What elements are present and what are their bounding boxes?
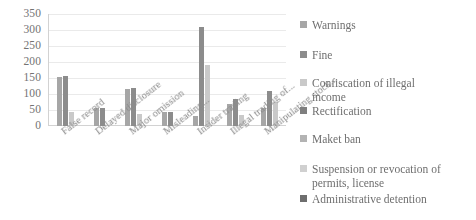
legend-swatch-icon	[300, 195, 307, 202]
legend-label: Maket ban	[312, 132, 361, 146]
legend-item[interactable]: Administrative detention	[300, 192, 472, 206]
legend-swatch-icon	[300, 107, 307, 114]
legend-item[interactable]: Rectification	[300, 104, 472, 118]
y-axis-tick-labels: 350300250200150100500	[0, 14, 44, 126]
plot-area: 350300250200150100500 False recordDelaye…	[0, 0, 290, 220]
legend-label: Administrative detention	[312, 192, 427, 206]
y-axis-tick-label: 150	[23, 72, 41, 84]
legend-label: Fine	[312, 48, 332, 62]
legend-item[interactable]: Maket ban	[300, 132, 472, 146]
legend-swatch-icon	[300, 21, 307, 28]
legend-swatch-icon	[300, 165, 307, 172]
y-axis-tick-label: 250	[23, 40, 41, 52]
legend-label: Rectification	[312, 104, 371, 118]
legend-swatch-icon	[300, 51, 307, 58]
legend-item[interactable]: Suspension or revocation of permits, lic…	[300, 162, 472, 190]
legend-label: Confiscation of illegal income	[312, 76, 415, 104]
y-axis-tick-label: 350	[23, 8, 41, 20]
x-axis-category-labels: False recordDelayed disclosureMajor omis…	[49, 128, 286, 218]
bar-chart: 350300250200150100500 False recordDelaye…	[0, 0, 476, 220]
legend-label: Suspension or revocation of permits, lic…	[312, 162, 441, 190]
y-axis-tick-label: 100	[23, 88, 41, 100]
y-axis-tick-label: 300	[23, 24, 41, 36]
legend-item[interactable]: Warnings	[300, 18, 472, 32]
bar	[57, 77, 62, 126]
y-axis-tick-label: 50	[29, 104, 41, 116]
y-axis-tick-label: 200	[23, 56, 41, 68]
bar	[63, 76, 68, 126]
y-axis-tick-label: 0	[35, 120, 41, 132]
legend-item[interactable]: Confiscation of illegal income	[300, 76, 472, 104]
legend-label: Warnings	[312, 18, 356, 32]
legend-item[interactable]: Fine	[300, 48, 472, 62]
bar	[193, 116, 198, 126]
legend-swatch-icon	[300, 135, 307, 142]
legend: WarningsFineConfiscation of illegal inco…	[300, 10, 476, 215]
bar-group	[49, 14, 83, 126]
legend-swatch-icon	[300, 79, 307, 86]
